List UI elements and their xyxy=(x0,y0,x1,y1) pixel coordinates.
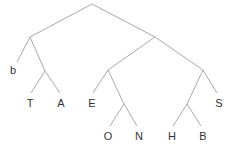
tree-edge xyxy=(30,37,45,71)
leaf-label-e: E xyxy=(88,97,95,109)
tree-edge xyxy=(108,70,124,104)
tree-edge xyxy=(93,70,108,93)
tree-edge xyxy=(31,71,45,93)
leaf-label-s: S xyxy=(215,97,222,109)
tree-edges xyxy=(17,4,217,126)
tree-edge xyxy=(203,70,217,93)
tree-edge xyxy=(45,71,60,93)
tree-edge xyxy=(155,37,203,70)
tree-edge xyxy=(30,4,92,37)
tree-diagram: b T A E O N H B S xyxy=(0,0,232,149)
leaf-label-t: T xyxy=(27,97,34,109)
tree-edge xyxy=(187,70,203,104)
tree-edge xyxy=(173,104,187,126)
tree-edge xyxy=(110,104,124,126)
tree-edge xyxy=(108,37,155,70)
leaf-label-b: b xyxy=(10,64,16,76)
tree-edge xyxy=(124,104,137,126)
tree-edge xyxy=(187,104,201,126)
leaf-label-b-upper: B xyxy=(199,130,206,142)
leaf-label-a: A xyxy=(57,97,65,109)
leaf-label-o: O xyxy=(104,130,113,142)
tree-edge xyxy=(17,37,30,62)
leaf-label-n: N xyxy=(135,130,143,142)
tree-edge xyxy=(92,4,155,37)
leaf-label-h: H xyxy=(168,130,176,142)
